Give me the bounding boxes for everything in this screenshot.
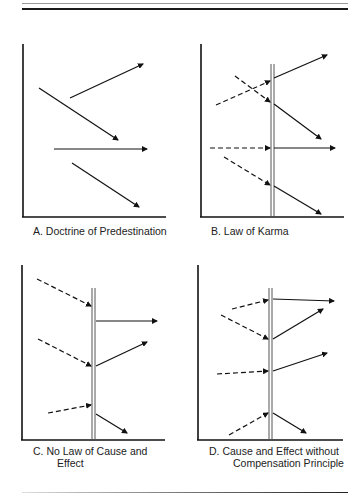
dashed-arrow xyxy=(38,339,91,366)
dashed-arrow xyxy=(48,405,91,413)
solid-arrow xyxy=(273,353,327,371)
solid-arrow xyxy=(273,413,306,433)
dashed-arrow xyxy=(221,315,268,339)
dashed-arrow xyxy=(235,76,270,102)
caption-panel-c: C. No Law of Cause and Effect xyxy=(33,445,147,469)
caption-panel-a: A. Doctrine of Predestination xyxy=(33,225,167,237)
dashed-arrow xyxy=(37,279,91,306)
caption-panel-d: D. Cause and Effect without Compensation… xyxy=(209,445,344,469)
solid-arrow xyxy=(96,414,127,433)
panel-b xyxy=(200,44,344,217)
dashed-arrow xyxy=(229,413,268,435)
solid-arrow xyxy=(70,64,143,98)
caption-line-1: C. No Law of Cause and xyxy=(33,445,147,457)
caption-line-1: D. Cause and Effect without xyxy=(209,445,344,457)
panel-a xyxy=(22,44,166,217)
caption-line-1: A. Doctrine of Predestination xyxy=(33,225,167,237)
panel-c xyxy=(21,265,165,440)
solid-arrow xyxy=(273,299,334,301)
caption-panel-b: B. Law of Karma xyxy=(211,225,289,237)
dashed-arrow xyxy=(224,157,270,185)
solid-arrow xyxy=(274,186,321,214)
karma-diagram xyxy=(0,0,364,493)
solid-arrow xyxy=(274,104,321,139)
dashed-arrow xyxy=(217,371,268,374)
panel-d xyxy=(197,265,343,440)
caption-line-1: B. Law of Karma xyxy=(211,225,289,237)
solid-arrow xyxy=(273,309,323,339)
dashed-arrow xyxy=(232,300,268,309)
solid-arrow xyxy=(96,342,147,366)
caption-line-2: Compensation Principle xyxy=(209,457,344,469)
solid-arrow xyxy=(274,55,327,78)
caption-line-2: Effect xyxy=(33,457,147,469)
solid-arrow xyxy=(72,163,139,207)
dashed-arrow xyxy=(216,81,270,105)
solid-arrow xyxy=(39,88,118,140)
